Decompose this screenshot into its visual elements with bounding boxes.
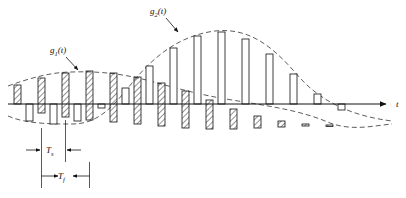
dimension-Tf: Tf [42,162,90,188]
t-axis-label: t [396,99,399,109]
dimension-Ts: Ts [26,120,81,162]
g2-leader [166,18,178,32]
Tf-label: Tf [58,171,66,183]
figure-canvas: t g1(t) g2(t) Ts Tf [0,0,406,198]
g1-label: g1(t) [50,45,66,57]
Ts-label: Ts [46,145,54,157]
g2-label: g2(t) [150,6,166,18]
tdm-pulse-figure: t g1(t) g2(t) Ts Tf [0,0,406,198]
g1-leader [66,57,78,70]
